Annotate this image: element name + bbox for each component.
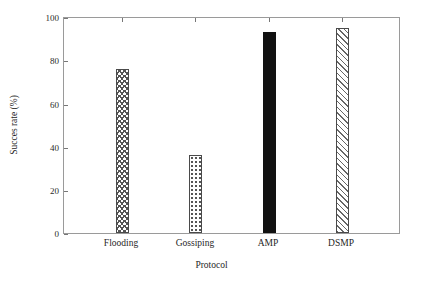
x-label-amp: AMP	[258, 239, 279, 249]
x-tick-top-amp	[269, 18, 270, 22]
bar-amp	[263, 32, 276, 233]
x-label-gossiping: Gossiping	[176, 239, 215, 249]
y-tick-label-100: 100	[46, 14, 60, 23]
y-tick-label-20: 20	[50, 187, 59, 196]
y-tick-0: 0	[64, 234, 68, 235]
x-tick-top-dsmp	[342, 18, 343, 22]
plot-area: 0 20 40 60 80 100	[63, 17, 400, 234]
y-tick-label-40: 40	[50, 144, 59, 153]
bar-dsmp	[336, 28, 349, 233]
y-tick-label-0: 0	[55, 230, 60, 239]
y-axis-title: Succes rate (%)	[9, 95, 19, 155]
bar-gossiping	[189, 155, 202, 233]
x-axis-title: Protocol	[0, 260, 423, 270]
y-tick-20: 20	[64, 191, 68, 192]
x-label-dsmp: DSMP	[328, 239, 354, 249]
x-tick-top-flooding	[122, 18, 123, 22]
y-tick-100: 100	[64, 18, 68, 19]
y-tick-label-60: 60	[50, 101, 59, 110]
y-tick-40: 40	[64, 148, 68, 149]
bar-chart-figure: 0 20 40 60 80 100 Flooding Gossi	[0, 0, 423, 285]
bar-flooding	[116, 69, 129, 233]
x-tick-top-gossiping	[195, 18, 196, 22]
x-label-flooding: Flooding	[104, 239, 138, 249]
y-tick-80: 80	[64, 61, 68, 62]
y-tick-60: 60	[64, 105, 68, 106]
y-tick-label-80: 80	[50, 57, 59, 66]
